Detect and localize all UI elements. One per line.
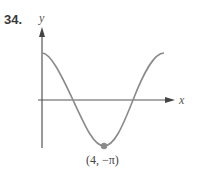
y-axis-label: y	[38, 11, 45, 25]
graph: y x (4, −π)	[0, 0, 210, 171]
x-axis-arrow-icon	[165, 97, 175, 103]
y-axis-arrow-icon	[39, 27, 45, 37]
minimum-point-label: (4, −π)	[86, 153, 119, 167]
x-axis-label: x	[178, 93, 185, 107]
minimum-point	[101, 143, 107, 149]
